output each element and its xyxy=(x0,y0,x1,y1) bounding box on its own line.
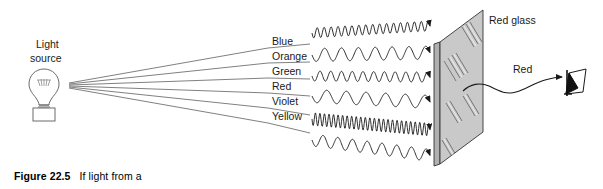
ray-line-yellow xyxy=(69,88,268,123)
ray-line-orange xyxy=(69,63,268,84)
ray-label-violet: Violet xyxy=(272,95,298,107)
red-glass-label: Red glass xyxy=(489,14,536,26)
wave-ray-violet xyxy=(312,113,430,135)
transmitted-red-label: Red xyxy=(513,63,532,75)
light-source-label-line2: source xyxy=(30,52,62,64)
observer-eye-icon xyxy=(564,69,586,96)
light-through-red-glass-diagram: Light source Blue Orange Green Red Viole… xyxy=(0,0,603,189)
ray-label-red: Red xyxy=(272,80,291,92)
ray-line-violet xyxy=(69,87,268,108)
ray-line-green xyxy=(69,78,268,85)
light-bulb-icon xyxy=(29,69,59,121)
ray-label-orange: Orange xyxy=(272,50,307,62)
wave-ray-orange xyxy=(312,46,430,61)
glass-panel-icon xyxy=(434,10,483,166)
figure-caption-text: If light from a xyxy=(80,170,142,182)
ray-line-blue xyxy=(69,48,268,83)
ray-label-green: Green xyxy=(272,65,301,77)
wave-rays-group xyxy=(312,21,430,160)
figure-caption: Figure 22.5If light from a xyxy=(14,170,142,182)
wave-ray-blue xyxy=(312,21,430,38)
wave-ray-yellow xyxy=(312,135,430,159)
figure-caption-number: Figure 22.5 xyxy=(14,170,71,182)
wave-ray-green xyxy=(312,71,430,82)
wave-ray-red xyxy=(312,90,430,107)
glass-panel-edge xyxy=(434,42,440,166)
light-source-label-line1: Light xyxy=(36,38,59,50)
figure-22-5: Light source Blue Orange Green Red Viole… xyxy=(0,0,603,189)
ray-label-blue: Blue xyxy=(272,35,293,47)
ray-line-red xyxy=(69,86,268,93)
ray-label-yellow: Yellow xyxy=(272,110,302,122)
